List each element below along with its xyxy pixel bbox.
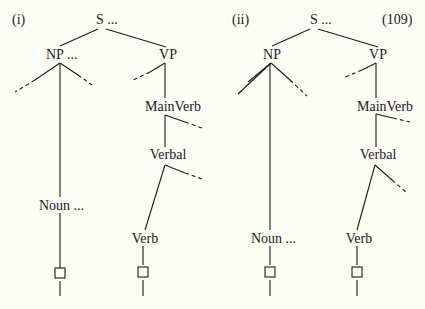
tree-ii-node-noun: Noun ... [251,232,296,246]
tree-ii-node-vp: VP [369,48,387,62]
tree-ii-label: (ii) [232,13,249,27]
tree-i-node-vp: VP [159,48,177,62]
tree-i-node-mainverb: MainVerb [145,100,201,114]
tree-ii-node-mainverb: MainVerb [357,100,413,114]
equation-number: (109) [382,13,412,27]
tree-ii-edges [238,29,410,296]
tree-i-node-s: S ... [96,13,118,27]
tree-ii-node-np: NP [263,48,281,62]
tree-i-node-np: NP ... [46,48,77,62]
tree-ii-node-verbal: Verbal [360,148,397,162]
tree-i-label: (i) [12,13,25,27]
tree-ii-node-s: S ... [310,13,332,27]
tree-i-node-verbal: Verbal [150,148,187,162]
tree-i-edges [15,29,205,296]
tree-i-node-noun: Noun ... [39,199,84,213]
tree-i-node-verb: Verb [132,232,158,246]
tree-ii-node-verb: Verb [346,232,372,246]
